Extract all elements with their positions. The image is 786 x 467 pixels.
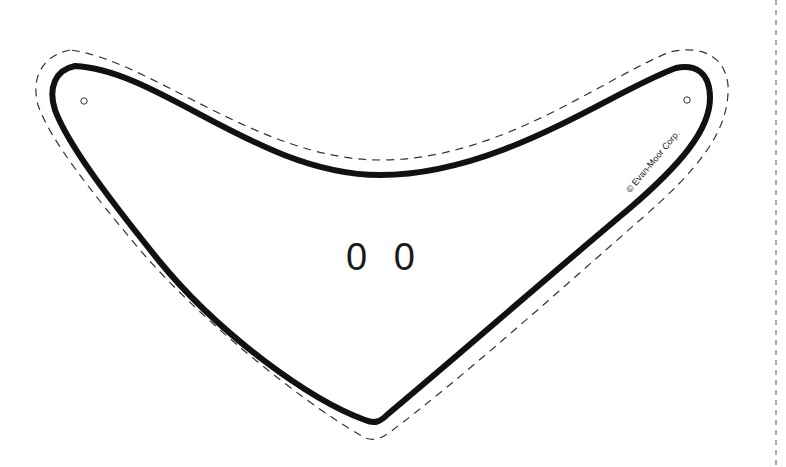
eyes-text: 0 0 [346,238,423,276]
bandana-drawing [0,0,786,467]
